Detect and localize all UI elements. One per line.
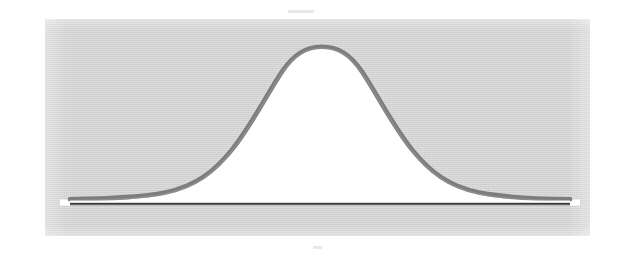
figure-root	[0, 0, 635, 253]
baseline-axis	[70, 203, 570, 205]
curve-fill-area	[60, 47, 580, 205]
bell-curve-chart	[0, 0, 635, 253]
baseline-axis-shadow	[70, 205, 570, 206]
baseline-white-gap	[70, 201, 570, 203]
